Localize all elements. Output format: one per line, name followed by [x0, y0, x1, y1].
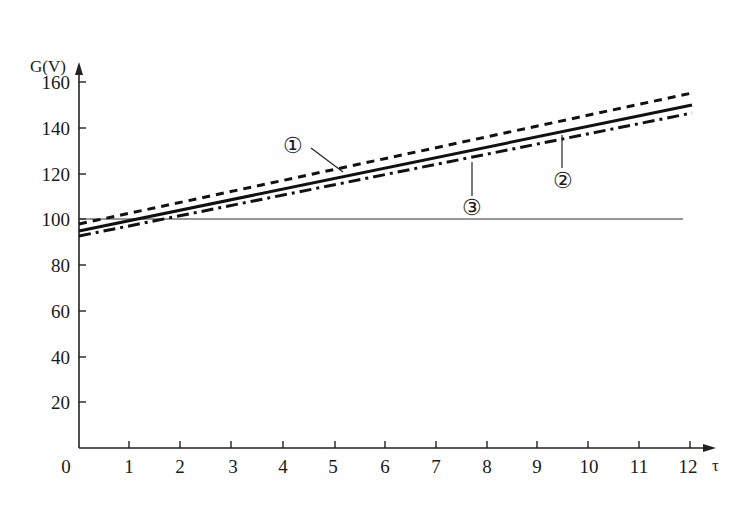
svg-text:9: 9 — [532, 456, 542, 477]
svg-text:40: 40 — [51, 347, 70, 368]
svg-text:140: 140 — [42, 118, 71, 139]
callout-3: ③ — [462, 162, 482, 220]
x-ticks — [129, 441, 690, 448]
svg-text:60: 60 — [51, 301, 70, 322]
svg-text:3: 3 — [228, 456, 238, 477]
svg-text:12: 12 — [679, 456, 698, 477]
series-2-solid — [79, 105, 692, 231]
x-tick-labels: 0 1 2 3 4 5 6 7 8 9 10 11 12 — [61, 456, 697, 477]
y-axis-title: G(V) — [30, 57, 66, 76]
x-axis-arrow-icon — [703, 444, 716, 452]
svg-text:10: 10 — [580, 456, 599, 477]
svg-text:2: 2 — [175, 456, 185, 477]
svg-text:6: 6 — [380, 456, 390, 477]
svg-text:4: 4 — [278, 456, 288, 477]
svg-text:100: 100 — [42, 209, 71, 230]
svg-text:8: 8 — [482, 456, 492, 477]
origin-label: 0 — [61, 456, 71, 477]
y-ticks — [79, 82, 86, 402]
svg-text:1: 1 — [124, 456, 134, 477]
series-3-dash-dot — [79, 113, 692, 236]
svg-text:5: 5 — [328, 456, 338, 477]
y-tick-labels: 20 40 60 80 100 120 140 160 — [42, 72, 71, 413]
callout-2: ② — [553, 135, 573, 193]
callout-1: ① — [283, 133, 343, 172]
svg-text:120: 120 — [42, 164, 71, 185]
svg-text:20: 20 — [51, 392, 70, 413]
svg-text:80: 80 — [51, 255, 70, 276]
svg-text:7: 7 — [431, 456, 441, 477]
svg-text:11: 11 — [630, 456, 648, 477]
svg-text:②: ② — [553, 168, 573, 193]
svg-text:①: ① — [283, 133, 303, 158]
svg-text:③: ③ — [462, 195, 482, 220]
x-axis-title: τ — [712, 456, 719, 475]
y-axis-arrow-icon — [75, 62, 83, 75]
chart: 20 40 60 80 100 120 140 160 G(V) 0 1 2 3… — [0, 0, 751, 526]
series-1-dashed — [79, 93, 692, 224]
